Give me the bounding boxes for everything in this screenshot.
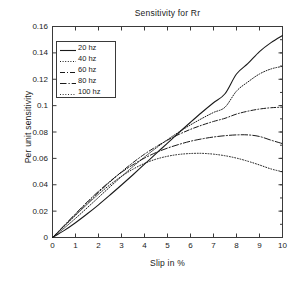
y-tick-label: 0.04	[22, 180, 48, 189]
y-tick-label: 0.16	[22, 22, 48, 31]
x-tick-label: 1	[68, 241, 84, 250]
x-tick-label: 6	[183, 241, 199, 250]
data-series-line	[53, 107, 283, 237]
legend-label: 40 hz	[78, 54, 96, 63]
legend-label: 100 hz	[78, 87, 101, 96]
x-tick-label: 2	[91, 241, 107, 250]
x-tick-label: 3	[114, 241, 130, 250]
legend-item: 40 hz	[57, 53, 115, 64]
data-series-line	[53, 153, 283, 237]
y-tick-label: 0.08	[22, 128, 48, 137]
y-tick-label: 0.02	[22, 207, 48, 216]
legend-label: 80 hz	[78, 76, 96, 85]
legend-item: 20 hz	[57, 42, 115, 53]
legend-line-sample	[59, 86, 77, 97]
y-tick-label: 0.12	[22, 75, 48, 84]
legend-item: 100 hz	[57, 86, 115, 97]
legend-label: 60 hz	[78, 65, 96, 74]
legend-item: 60 hz	[57, 64, 115, 75]
legend-line-sample	[59, 42, 77, 53]
legend-line-sample	[59, 53, 77, 64]
data-series-line	[53, 135, 283, 238]
x-tick-label: 9	[252, 241, 268, 250]
legend-line-sample	[59, 75, 77, 86]
y-tick-label: 0.14	[22, 48, 48, 57]
legend-label: 20 hz	[78, 43, 96, 52]
y-tick-label: 0.06	[22, 154, 48, 163]
legend: 20 hz40 hz60 hz80 hz100 hz	[56, 41, 116, 98]
legend-line-sample	[59, 64, 77, 75]
chart-figure: Sensitivity for Rr Per unit sensitivity …	[0, 0, 307, 285]
legend-item: 80 hz	[57, 75, 115, 86]
x-tick-label: 10	[275, 241, 291, 250]
x-tick-label: 0	[45, 241, 61, 250]
x-tick-label: 7	[206, 241, 222, 250]
x-tick-label: 8	[229, 241, 245, 250]
y-tick-label: 0.1	[22, 101, 48, 110]
x-tick-label: 4	[137, 241, 153, 250]
x-tick-label: 5	[160, 241, 176, 250]
